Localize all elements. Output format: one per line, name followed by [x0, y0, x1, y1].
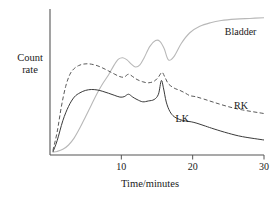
series-label-lk: LK: [176, 113, 189, 124]
chart-figure: Countrate Time/minutes 102030 BladderRKL…: [0, 0, 277, 201]
series-line-rk: [53, 64, 264, 151]
y-axis-label-line1: Count: [17, 52, 43, 63]
series-label-bladder: Bladder: [225, 26, 257, 37]
series-line-lk: [53, 80, 264, 152]
x-tick-label-20: 20: [183, 161, 203, 172]
x-axis-label: Time/minutes: [105, 178, 195, 190]
y-axis-label-line2: rate: [22, 64, 38, 75]
series-line-bladder: [53, 18, 264, 152]
x-axis-ticks: [121, 155, 264, 160]
x-tick-label-30: 30: [254, 161, 274, 172]
series-label-rk: RK: [234, 100, 248, 111]
y-axis-label: Countrate: [9, 52, 51, 75]
x-tick-label-10: 10: [111, 161, 131, 172]
